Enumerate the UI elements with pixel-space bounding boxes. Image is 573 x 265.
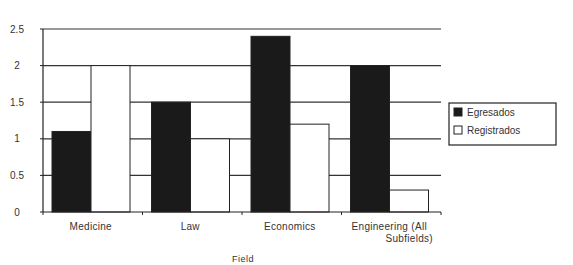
bar-egresados-2 (251, 36, 290, 212)
legend-label-egresados: Egresados (467, 107, 515, 118)
y-tick-label: 0 (14, 207, 20, 218)
bars (52, 36, 429, 212)
bar-egresados-3 (351, 66, 390, 212)
x-category-label: Medicine (70, 221, 113, 232)
x-category-label: Law (181, 221, 201, 232)
bar-egresados-0 (52, 131, 91, 212)
legend-label-registrados: Registrados (467, 125, 520, 136)
legend-swatch-registrados (454, 126, 462, 134)
bar-registrados-0 (91, 66, 130, 212)
y-axis-ticks: 00.511.522.5 (10, 24, 24, 218)
y-tick-label: 1 (14, 133, 20, 144)
y-tick-label: 0.5 (10, 170, 24, 181)
x-category-label: Economics (264, 221, 316, 232)
y-tick-label: 2 (14, 60, 20, 71)
legend-swatch-egresados (454, 108, 462, 116)
bar-chart: 00.511.522.5 MedicineLawEconomicsEnginee… (0, 0, 573, 265)
legend: EgresadosRegistrados (449, 103, 556, 145)
x-axis-category-labels: MedicineLawEconomicsEngineering (AllSubf… (70, 221, 433, 244)
x-category-label: Engineering (AllSubfields) (352, 221, 433, 244)
bar-registrados-1 (191, 139, 230, 212)
y-tick-label: 2.5 (10, 24, 24, 35)
x-axis-title: Field (232, 254, 254, 264)
bar-egresados-1 (152, 102, 191, 212)
bar-registrados-3 (390, 190, 429, 212)
bar-registrados-2 (290, 124, 329, 212)
y-tick-label: 1.5 (10, 97, 24, 108)
